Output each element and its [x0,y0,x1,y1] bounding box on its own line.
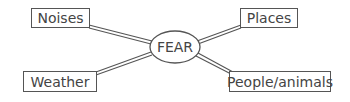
branch-weather: Weather [23,71,97,92]
center-node-label: FEAR [157,39,193,55]
branch-label: Places [247,10,292,26]
branch-places: Places [240,8,298,28]
center-node: FEAR [150,31,200,63]
branch-people-animals: People/animals [229,71,331,92]
spider-diagram: FEAR Noises Places Weather People/animal… [0,0,350,102]
branch-label: People/animals [227,74,333,90]
branch-noises: Noises [31,8,90,28]
branch-label: Noises [37,10,83,26]
branch-label: Weather [31,74,90,90]
